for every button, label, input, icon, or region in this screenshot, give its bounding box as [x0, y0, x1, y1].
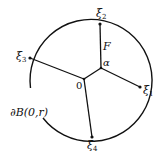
boundary-circle	[30, 19, 152, 141]
node-alpha	[100, 67, 103, 70]
label-xi2: ξ2	[96, 7, 107, 21]
label-alpha: α	[103, 57, 110, 68]
label-origin: 0	[76, 80, 82, 91]
label-F: F	[102, 40, 111, 53]
edge-origin-xi3	[30, 58, 84, 79]
node-origin	[83, 78, 86, 81]
node-xi3	[28, 56, 31, 59]
edge-origin-alpha	[84, 68, 101, 79]
label-boundary: ∂B(0,r)	[10, 106, 48, 119]
edge-alpha-xi1	[101, 68, 140, 87]
edge-origin-xi4	[84, 79, 92, 137]
edge-alpha-xi2	[100, 24, 101, 68]
node-xi1	[138, 85, 141, 88]
node-xi2	[98, 22, 101, 25]
label-xi3: ξ3	[16, 50, 27, 64]
ball-diagram: ξ2 F α ξ3 0 ξ1 ∂B(0,r) ξ4	[0, 0, 159, 155]
